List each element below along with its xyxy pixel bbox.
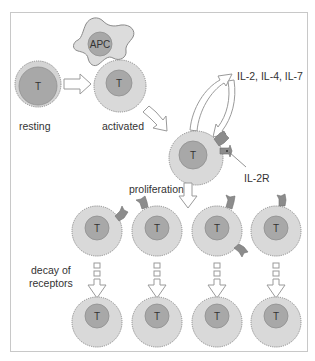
resting-nucleus-label: T (35, 81, 41, 92)
nucleus-label: T (273, 223, 279, 234)
proliferating-nucleus-label: T (190, 150, 196, 161)
decayed-cell-3: T (192, 297, 242, 347)
decayed-cell-4: T (251, 297, 301, 347)
decayed-cell-1: T (72, 297, 122, 347)
t-cell-activation-diagram: T resting APC T activated IL-2, IL-4, IL… (0, 0, 315, 361)
nucleus-label: T (214, 223, 220, 234)
resting-t-cell: T (15, 61, 61, 107)
nucleus-label: T (273, 311, 279, 322)
nucleus-label: T (214, 311, 220, 322)
apc-nucleus-label: APC (90, 39, 111, 50)
activated-t-cell: T (94, 60, 146, 112)
decay-label-line2: receptors (29, 277, 73, 289)
decay-label-line1: decay of (31, 264, 71, 276)
cytokines-label: IL-2, IL-4, IL-7 (237, 70, 303, 82)
nucleus-label: T (94, 311, 100, 322)
receptor-label: IL-2R (244, 172, 270, 184)
nucleus-label: T (154, 223, 160, 234)
decayed-cell-2: T (132, 297, 182, 347)
activated-nucleus-label: T (116, 78, 122, 89)
activated-label: activated (102, 120, 144, 132)
nucleus-label: T (154, 311, 160, 322)
nucleus-label: T (94, 223, 100, 234)
proliferation-label: proliferation (129, 183, 184, 195)
resting-label: resting (19, 120, 51, 132)
